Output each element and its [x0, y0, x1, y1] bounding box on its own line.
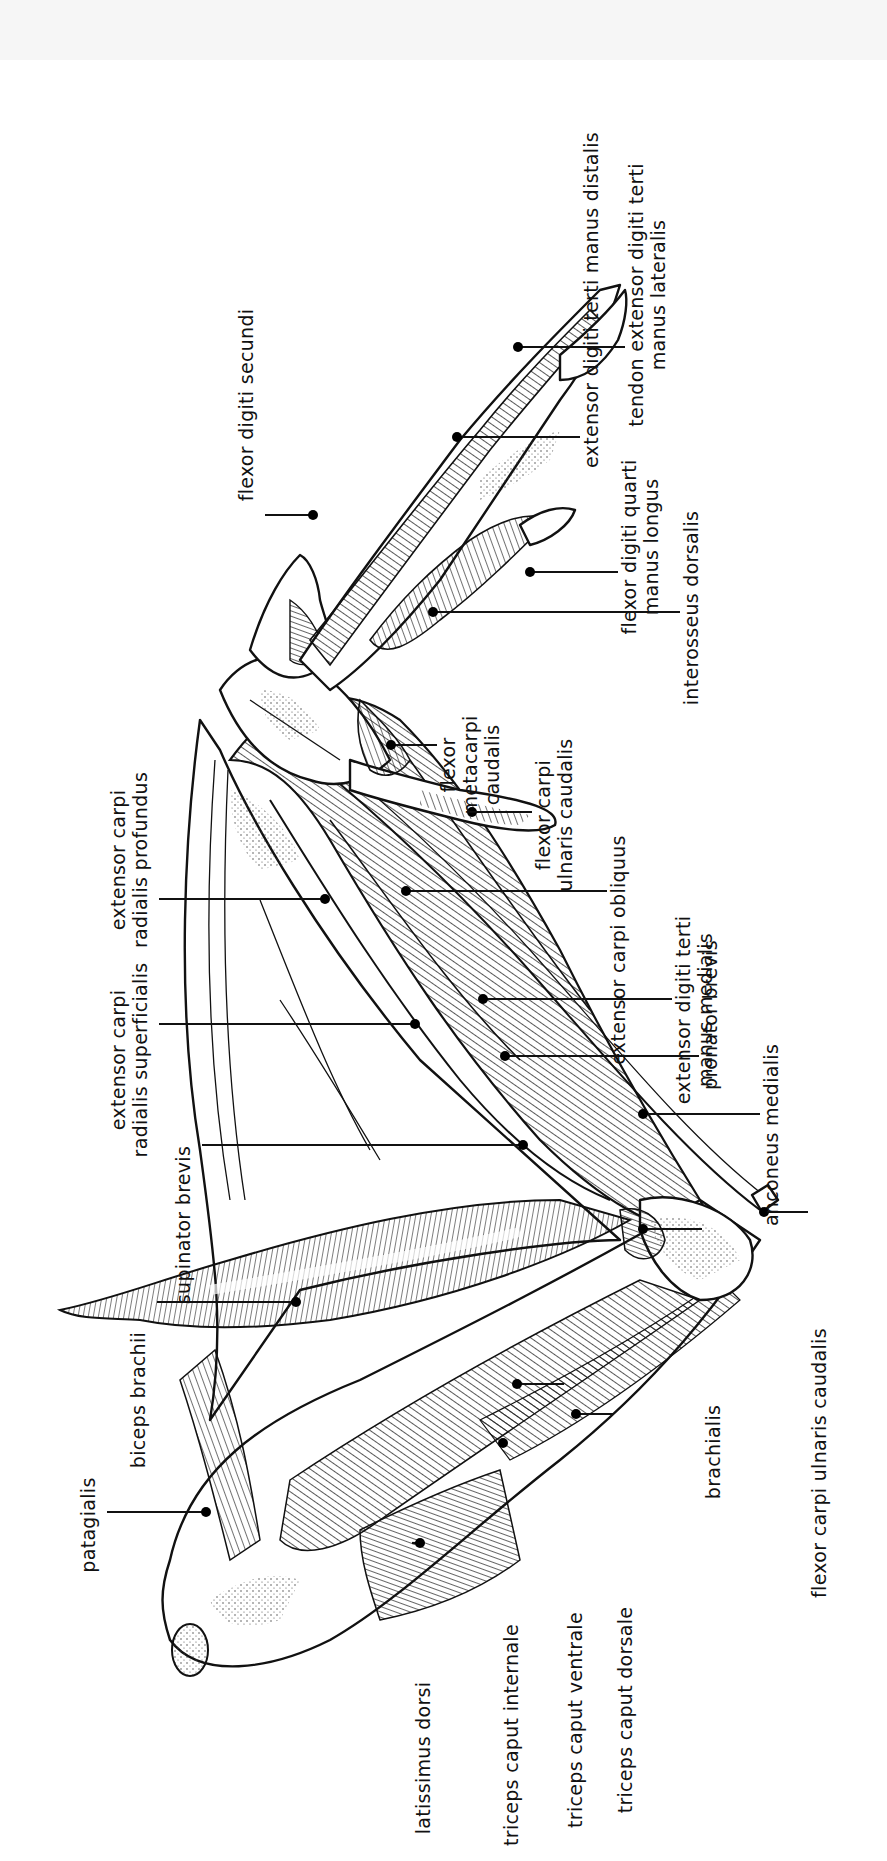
marker-dot-flexor-digiti-quarti-manus-longus — [525, 567, 535, 577]
label-brachialis: brachialis — [702, 1405, 724, 1499]
marker-dot-flexor-digiti-secundi — [308, 510, 318, 520]
marker-dot-biceps-brachii — [291, 1297, 301, 1307]
label-supinator-brevis: supinator brevis — [172, 1146, 194, 1304]
label-anconeus-medialis: anconeus medialis — [760, 1044, 782, 1226]
marker-dot-extensor-carpi-radialis-profundus — [320, 894, 330, 904]
anatomy-figure: extensor digiti terti manus distalistend… — [0, 0, 887, 1861]
marker-dot-extensor-digiti-terti-manus-medialis — [478, 994, 488, 1004]
marker-dot-patagialis — [201, 1507, 211, 1517]
marker-dot-triceps-caput-internale — [498, 1438, 508, 1448]
marker-dot-triceps-caput-dorsale — [571, 1409, 581, 1419]
marker-dot-triceps-caput-ventrale — [512, 1379, 522, 1389]
label-triceps-caput-ventrale: triceps caput ventrale — [564, 1612, 586, 1828]
label-extensor-carpi-obliquus: extensor carpi obliquus — [607, 835, 629, 1065]
wing-drawing: extensor digiti terti manus distalistend… — [0, 0, 887, 1861]
label-biceps-brachii: biceps brachii — [127, 1332, 149, 1468]
marker-dot-tendon-extensor-digiti-terti-manus-lateralis — [513, 342, 523, 352]
label-flexor-carpi-ulnaris-caudalis: flexor carpiulnaris caudalis — [532, 738, 576, 891]
label-latissimus-dorsi: latissimus dorsi — [412, 1682, 434, 1835]
label-interosseus-dorsalis: interosseus dorsalis — [680, 511, 702, 705]
marker-dot-latissimus-dorsi — [415, 1538, 425, 1548]
marker-dot-extensor-digiti-terti-manus-distalis — [452, 432, 462, 442]
label-patagialis: patagialis — [77, 1477, 99, 1572]
label-triceps-caput-dorsale: triceps caput dorsale — [614, 1607, 636, 1814]
label-extensor-digiti-terti-manus-distalis: extensor digiti terti manus distalis — [580, 132, 602, 468]
scan-shadow — [0, 0, 887, 60]
label-extensor-carpi-radialis-profundus: extensor carpiradialis profundus — [107, 772, 151, 948]
label-flexor-carpi-ulnaris-caudalis-elbow: flexor carpi ulnaris caudalis — [808, 1328, 830, 1598]
label-flexor-digiti-secundi: flexor digiti secundi — [235, 309, 257, 502]
marker-dot-anconeus-medialis — [638, 1109, 648, 1119]
marker-dot-interosseus-dorsalis — [428, 607, 438, 617]
marker-dot-extensor-carpi-obliquus — [401, 886, 411, 896]
marker-dot-flexor-metacarpi-caudalis — [386, 740, 396, 750]
marker-dot-brachialis — [638, 1224, 648, 1234]
marker-dot-supinator-brevis — [518, 1140, 528, 1150]
label-extensor-carpi-radialis-superficialis: extensor carpiradialis superficialis — [107, 963, 151, 1158]
label-flexor-digiti-quarti-manus-longus: flexor digiti quartimanus longus — [618, 459, 662, 634]
marker-dot-extensor-carpi-radialis-superficialis — [410, 1019, 420, 1029]
label-tendon-extensor-digiti-terti-manus-lateralis: tendon extensor digiti tertimanus latera… — [625, 163, 669, 427]
marker-dot-pronator-brevis — [500, 1051, 510, 1061]
label-triceps-caput-internale: triceps caput internale — [500, 1624, 522, 1846]
label-pronator-brevis: pronator brevis — [699, 940, 721, 1090]
